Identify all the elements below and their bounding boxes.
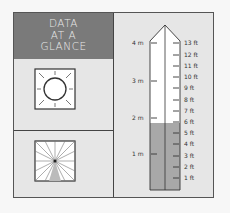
feet-label-1: 1 ft [184, 174, 194, 181]
metric-label-1m: 1 m [132, 150, 144, 157]
metric-label-4m: 4 m [132, 39, 144, 46]
data-at-a-glance-panel: DATA AT A GLANCE [13, 12, 214, 198]
feet-label-12: 12 ft [184, 51, 198, 58]
feet-label-8: 8 ft [184, 96, 194, 103]
feet-label-6: 6 ft [184, 118, 194, 125]
metric-label-3m: 3 m [132, 77, 144, 84]
feet-label-2: 2 ft [184, 163, 194, 170]
feet-label-13: 13 ft [184, 39, 198, 46]
feet-label-11: 11 ft [184, 62, 198, 69]
feet-label-5: 5 ft [184, 129, 194, 136]
feet-label-9: 9 ft [184, 84, 194, 91]
feet-label-10: 10 ft [184, 73, 198, 80]
feet-label-3: 3 ft [184, 152, 194, 159]
feet-label-4: 4 ft [184, 140, 194, 147]
feet-label-7: 7 ft [184, 107, 194, 114]
metric-label-2m: 2 m [132, 114, 144, 121]
